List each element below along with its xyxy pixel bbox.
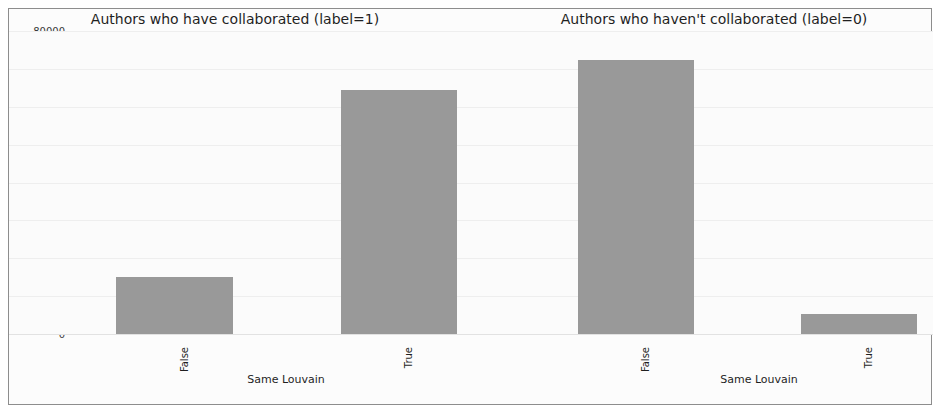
bar-left-true — [341, 90, 457, 334]
x-tick-right-false: False — [640, 347, 651, 372]
gridline-60000 — [471, 107, 933, 108]
x-tick-left-false: False — [179, 347, 190, 372]
subplot-title-left: Authors who have collaborated (label=1) — [91, 11, 379, 27]
gridline-20000 — [471, 258, 933, 259]
gridline-70000 — [9, 69, 471, 70]
gridline-80000 — [9, 31, 471, 32]
gridline-30000 — [471, 220, 933, 221]
bar-right-false — [578, 60, 694, 334]
gridline-0 — [471, 334, 933, 335]
bar-left-false — [116, 277, 233, 334]
plot-area-left — [9, 31, 471, 334]
plot-area-right — [471, 31, 933, 334]
figure-panel: 80000 70000 60000 50000 40000 30000 2000… — [8, 8, 932, 405]
gridline-80000 — [471, 31, 933, 32]
x-tick-left-true: True — [403, 347, 414, 368]
subplot-label-1: Authors who have collaborated (label=1) … — [9, 9, 471, 404]
x-tick-right-true: True — [863, 347, 874, 368]
gridline-10000 — [471, 296, 933, 297]
gridline-40000 — [471, 183, 933, 184]
subplot-title-right: Authors who haven't collaborated (label=… — [561, 11, 868, 27]
x-axis-title-right: Same Louvain — [720, 373, 798, 386]
gridline-0 — [9, 334, 471, 335]
subplot-label-0: Authors who haven't collaborated (label=… — [471, 9, 933, 404]
x-axis-title-left: Same Louvain — [247, 373, 325, 386]
gridline-70000 — [471, 69, 933, 70]
gridline-50000 — [471, 145, 933, 146]
bar-right-true — [801, 314, 917, 334]
